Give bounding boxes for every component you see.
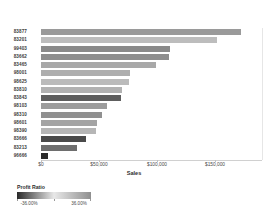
bar-row: 83465 [0,61,268,69]
bar[interactable] [41,153,48,159]
bar-row: 83213 [0,144,268,152]
bar[interactable] [41,70,130,76]
bar-row: 98390 [0,127,268,135]
y-axis-label: 83662 [0,53,27,61]
bar-row: 99403 [0,45,268,53]
bar-row: 98601 [0,119,268,127]
bar[interactable] [41,46,170,52]
legend-value-label: 36.00% [71,201,87,206]
bar-row: 83877 [0,28,268,36]
legend-tick-mark [17,199,18,201]
bar[interactable] [41,120,97,126]
bar[interactable] [41,54,169,60]
y-axis-label: 83465 [0,61,27,69]
y-axis-label: 98001 [0,69,27,77]
y-axis-label: 83201 [0,36,27,44]
legend-tick-mark [54,199,55,201]
bar-row: 98625 [0,78,268,86]
y-axis-label: 83213 [0,144,27,152]
bar-row: 83201 [0,36,268,44]
bar[interactable] [41,112,102,118]
bar-row: 98001 [0,69,268,77]
bar-row: 83810 [0,86,268,94]
plot-right-border [262,28,263,160]
x-axis-line [41,160,262,161]
y-axis-label: 83843 [0,94,27,102]
bar-row: 83666 [0,135,268,143]
y-axis-label: 99403 [0,45,27,53]
y-axis-label: 98103 [0,102,27,110]
y-axis-label: 83810 [0,86,27,94]
x-axis-title: Sales [0,170,268,176]
bar[interactable] [41,128,96,134]
legend-tick-labels: -36.00%36.00% [17,199,91,207]
legend-color-ramp [17,192,91,199]
bar[interactable] [41,37,217,43]
legend-tick-mark [90,199,91,201]
y-axis-label: 98601 [0,119,27,127]
legend-title: Profit Ratio [17,184,137,190]
bar[interactable] [41,62,156,68]
plot-area: 8387783201994038366283465980019862583810… [0,28,268,160]
y-axis-label: 96666 [0,152,27,160]
bar[interactable] [41,87,122,93]
bar[interactable] [41,79,129,85]
legend-value-label: -36.00% [20,201,37,206]
x-tick-label: $50,000 [90,162,107,167]
x-tick-label: $100,000 [147,162,167,167]
y-axis-label: 83877 [0,28,27,36]
bar-row: 96666 [0,152,268,160]
sales-by-zip-bar-chart: 8387783201994038366283465980019862583810… [0,0,268,222]
bar[interactable] [41,136,86,142]
profit-ratio-legend: Profit Ratio -36.00%36.00% [17,184,137,207]
y-axis-label: 83666 [0,135,27,143]
bar[interactable] [41,145,77,151]
x-tick-label: $150,000 [205,162,225,167]
y-axis-label: 98625 [0,78,27,86]
bar-row: 98310 [0,111,268,119]
bar-rows: 8387783201994038366283465980019862583810… [0,28,268,160]
bar[interactable] [41,95,121,101]
bar[interactable] [41,103,107,109]
y-axis-label: 98390 [0,127,27,135]
bar[interactable] [41,29,241,35]
bar-row: 83662 [0,53,268,61]
bar-row: 83843 [0,94,268,102]
bar-row: 98103 [0,102,268,110]
x-tick-label: $0 [38,162,43,167]
y-axis-label: 98310 [0,111,27,119]
